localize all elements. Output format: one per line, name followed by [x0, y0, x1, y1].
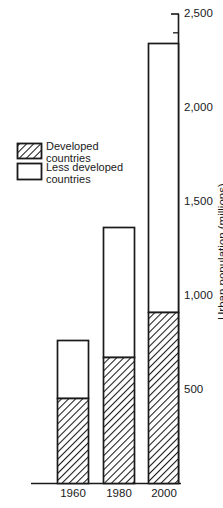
x-tick-label-2000: 2000 — [141, 487, 187, 499]
bar-group-2000 — [149, 44, 179, 484]
x-tick-label-1980: 1980 — [96, 487, 142, 499]
y-tick-label-1500: 1,500 — [184, 195, 213, 207]
y-tick-label-500: 500 — [184, 383, 203, 395]
legend-swatch-developed — [18, 144, 42, 159]
legend-label-developed-line1: Developed — [46, 140, 99, 152]
chart-canvas — [0, 0, 223, 508]
legend-label-less-developed: Less developed countries — [46, 162, 123, 185]
bar-group-1960 — [58, 341, 89, 484]
y-tick-label-2000: 2,000 — [184, 101, 213, 113]
legend-label-less-developed-line1: Less developed — [46, 161, 123, 173]
y-tick-label-1000: 1,000 — [184, 289, 213, 301]
bar-1980-less-developed — [104, 228, 135, 358]
legend-label-less-developed-line2: countries — [46, 174, 123, 186]
bar-1960-less-developed — [58, 341, 89, 399]
y-axis-title: Urban population (millions) — [216, 183, 223, 320]
bar-1960-developed — [58, 399, 89, 484]
bar-group-1980 — [104, 228, 135, 484]
bar-2000-less-developed — [149, 44, 179, 313]
y-tick-label-2500: 2,500 — [184, 7, 213, 19]
urban-population-bar-chart: 2,500 2,000 1,500 1,000 500 Urban popula… — [0, 0, 223, 508]
legend-swatch-less-developed — [18, 164, 42, 180]
bar-2000-developed — [149, 313, 179, 484]
x-tick-label-1960: 1960 — [50, 487, 96, 499]
bar-1980-developed — [104, 358, 135, 484]
